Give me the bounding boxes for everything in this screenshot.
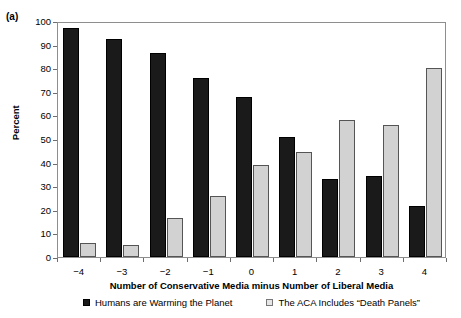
y-tick-label: 10	[25, 230, 51, 240]
bar-series-0-cat-0	[63, 28, 79, 257]
bar-series-0-cat-1	[106, 39, 122, 257]
y-tick-label: 50	[25, 135, 51, 145]
legend-swatch-icon	[83, 299, 90, 306]
panel-label: (a)	[6, 12, 18, 22]
legend-label: The ACA Includes “Death Panels”	[278, 298, 420, 308]
legend-swatch-icon	[266, 299, 273, 306]
y-tick-label: 30	[25, 182, 51, 192]
legend-entry-0: Humans are Warming the Planet	[83, 298, 232, 308]
x-tick-mark	[57, 258, 58, 262]
y-tick-label: 20	[25, 206, 51, 216]
bar-series-1-cat-4	[253, 165, 269, 257]
y-tick-label: 60	[25, 112, 51, 122]
x-tick-mark	[360, 258, 361, 262]
bar-series-1-cat-7	[383, 125, 399, 257]
y-tick-label: 70	[25, 88, 51, 98]
bar-series-0-cat-5	[279, 137, 295, 257]
y-tick-label: 40	[25, 159, 51, 169]
x-tick-mark	[187, 258, 188, 262]
x-tick-label: −3	[102, 267, 142, 277]
y-tick-label: 90	[25, 41, 51, 51]
y-tick-mark	[53, 258, 57, 259]
x-tick-mark	[273, 258, 274, 262]
x-tick-label: −1	[188, 267, 228, 277]
y-tick-label: 80	[25, 64, 51, 74]
x-tick-label: 3	[361, 267, 401, 277]
chart-legend: Humans are Warming the PlanetThe ACA Inc…	[57, 298, 446, 308]
bar-series-0-cat-4	[236, 97, 252, 257]
y-tick-label: 100	[25, 17, 51, 27]
y-tick-label: 0	[25, 253, 51, 263]
bar-series-0-cat-3	[193, 78, 209, 257]
x-tick-label: −4	[59, 267, 99, 277]
bar-series-0-cat-8	[409, 206, 425, 257]
bar-series-0-cat-6	[322, 179, 338, 257]
bar-series-1-cat-0	[80, 243, 96, 257]
x-tick-label: 2	[318, 267, 358, 277]
x-tick-mark	[143, 258, 144, 262]
x-axis-title: Number of Conservative Media minus Numbe…	[57, 281, 446, 291]
bar-series-1-cat-6	[339, 120, 355, 257]
figure-panel-a: (a) Percent 0102030405060708090100−4−3−2…	[0, 0, 461, 318]
x-tick-mark	[316, 258, 317, 262]
legend-label: Humans are Warming the Planet	[95, 298, 232, 308]
x-tick-mark	[446, 258, 447, 262]
bar-series-1-cat-1	[123, 245, 139, 257]
bar-series-0-cat-2	[150, 53, 166, 257]
x-tick-label: 0	[232, 267, 272, 277]
x-tick-mark	[100, 258, 101, 262]
x-tick-mark	[403, 258, 404, 262]
x-tick-label: −2	[145, 267, 185, 277]
x-tick-mark	[230, 258, 231, 262]
x-tick-label: 4	[404, 267, 444, 277]
x-tick-label: 1	[275, 267, 315, 277]
bar-series-0-cat-7	[366, 176, 382, 257]
plot-area	[57, 22, 446, 258]
bar-series-1-cat-5	[296, 152, 312, 257]
bar-series-1-cat-8	[426, 68, 442, 257]
legend-entry-1: The ACA Includes “Death Panels”	[266, 298, 420, 308]
bar-series-1-cat-3	[210, 196, 226, 257]
y-axis-title: Percent	[11, 83, 21, 163]
bar-series-1-cat-2	[167, 218, 183, 257]
